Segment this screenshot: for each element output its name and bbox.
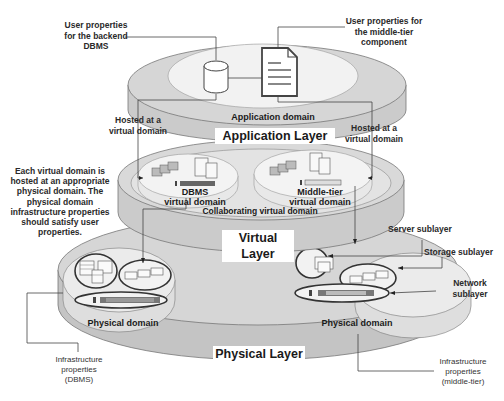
database-icon: [204, 61, 228, 93]
callout-server-sublayer: Server sublayer: [388, 224, 468, 235]
physical-domain-right-label: Physical domain: [312, 318, 402, 329]
physical-layer-title: Physical Layer: [213, 346, 305, 362]
callout-user-props-middle-tier: User properties for the middle-tier comp…: [345, 16, 423, 48]
physical-domain-left-label: Physical domain: [78, 318, 168, 329]
callout-hosted-left: Hosted at a virtual domain: [108, 115, 168, 136]
collaborating-virtual-domain-label: Collaborating virtual domain: [195, 206, 325, 217]
application-domain-label: Application domain: [218, 112, 328, 123]
virtual-layer-title: Virtual Layer: [222, 230, 294, 262]
callout-infra-dbms: Infrastructure properties (DBMS): [48, 355, 110, 385]
callout-network-sublayer: Network sublayer: [445, 278, 495, 299]
document-icon: [262, 48, 297, 96]
callout-storage-sublayer: Storage sublayer: [424, 247, 504, 258]
callout-explanation: Each virtual domain is hosted at an appr…: [4, 166, 116, 237]
callout-user-props-backend: User properties for the backend DBMS: [60, 20, 132, 52]
callout-hosted-right: Hosted at a virtual domain: [343, 123, 405, 144]
callout-infra-middle-tier: Infrastructure properties (middle-tier): [432, 357, 494, 387]
application-layer-title: Application Layer: [215, 128, 335, 144]
